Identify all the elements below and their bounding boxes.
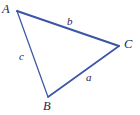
triangle-figure: A B C a b c bbox=[0, 0, 140, 115]
side-label-c: c bbox=[19, 51, 24, 62]
side-a-line bbox=[48, 46, 119, 97]
side-label-a: a bbox=[86, 72, 92, 83]
vertex-label-b: B bbox=[43, 100, 51, 113]
side-label-b: b bbox=[67, 16, 73, 27]
vertex-label-c: C bbox=[124, 38, 132, 51]
vertex-label-a: A bbox=[2, 3, 10, 16]
